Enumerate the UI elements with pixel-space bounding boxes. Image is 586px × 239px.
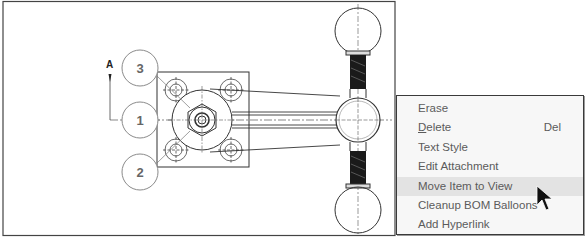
shortcut-delete: Del [544,118,561,137]
svg-text:3: 3 [136,61,143,76]
balloon-3[interactable]: 3 [122,50,158,86]
mouse-pointer-icon [536,185,556,213]
menu-item-delete[interactable]: Delete Del [397,118,583,137]
balloon-2[interactable]: 2 [122,154,158,190]
context-menu: Erase Delete Del Text Style Edit Attachm… [396,95,584,235]
menu-item-text-style[interactable]: Text Style [397,138,583,157]
menu-item-edit-attachment[interactable]: Edit Attachment [397,157,583,176]
menu-item-erase[interactable]: Erase [397,99,583,118]
balloon-1[interactable]: 1 [122,102,158,138]
svg-text:2: 2 [136,165,143,180]
menu-item-add-hyperlink[interactable]: Add Hyperlink [397,215,583,234]
joint[interactable] [336,98,380,142]
section-arrow-a[interactable]: A [106,59,113,120]
section-label: A [106,59,113,70]
svg-text:1: 1 [136,113,143,128]
